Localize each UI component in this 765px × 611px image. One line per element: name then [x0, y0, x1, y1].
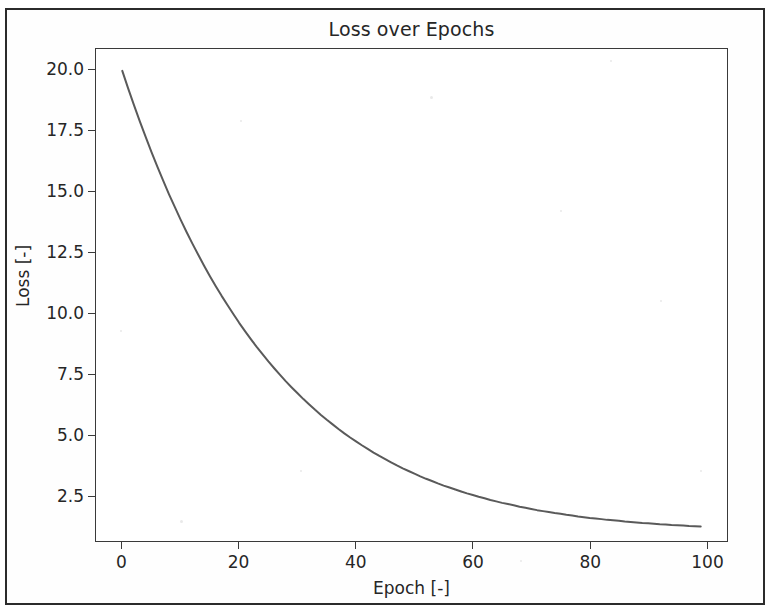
x-tick-mark — [238, 542, 239, 549]
x-tick-mark — [472, 542, 473, 549]
scan-artifact — [520, 560, 522, 562]
y-tick-mark — [88, 69, 95, 70]
x-tick-label: 100 — [667, 552, 747, 572]
y-tick-mark — [88, 313, 95, 314]
y-tick-label: 12.5 — [18, 242, 84, 262]
x-tick-label: 60 — [433, 552, 513, 572]
y-tick-mark — [88, 496, 95, 497]
x-axis-label: Epoch [-] — [95, 578, 728, 598]
y-tick-label: 7.5 — [18, 364, 84, 384]
x-tick-label: 0 — [81, 552, 161, 572]
chart-title: Loss over Epochs — [95, 18, 728, 40]
y-tick-mark — [88, 130, 95, 131]
y-tick-mark — [88, 374, 95, 375]
plot-area — [95, 48, 728, 542]
y-tick-label: 10.0 — [18, 303, 84, 323]
loss-curve-svg — [96, 49, 727, 541]
y-tick-label: 2.5 — [18, 486, 84, 506]
y-tick-label: 5.0 — [18, 425, 84, 445]
y-tick-mark — [88, 435, 95, 436]
y-tick-mark — [88, 252, 95, 253]
x-tick-mark — [121, 542, 122, 549]
x-tick-mark — [590, 542, 591, 549]
y-tick-mark — [88, 191, 95, 192]
x-tick-label: 80 — [550, 552, 630, 572]
x-tick-label: 40 — [316, 552, 396, 572]
x-tick-mark — [355, 542, 356, 549]
y-tick-label: 17.5 — [18, 120, 84, 140]
x-tick-mark — [707, 542, 708, 549]
loss-curve-line — [122, 71, 700, 527]
y-tick-label: 20.0 — [18, 59, 84, 79]
x-tick-label: 20 — [199, 552, 279, 572]
y-tick-label: 15.0 — [18, 181, 84, 201]
